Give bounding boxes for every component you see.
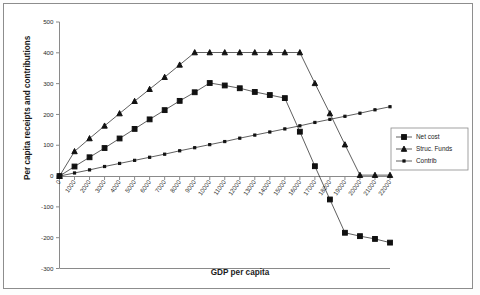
y-tick-label: 100 — [43, 141, 54, 148]
marker-square — [297, 129, 302, 134]
marker-triangle — [207, 50, 212, 55]
y-tick-label: 400 — [43, 49, 54, 56]
marker-triangle — [102, 123, 107, 128]
marker-cross — [239, 137, 241, 139]
y-axis-ticks: -300-200-1000100200300400500 — [41, 18, 59, 272]
x-tick-label: 0 — [54, 178, 62, 185]
marker-cross — [254, 134, 256, 136]
marker-cross — [103, 165, 105, 167]
marker-square — [252, 90, 257, 95]
marker-cross — [164, 153, 166, 155]
y-tick-label: -100 — [41, 203, 54, 210]
line-chart: -300-200-1000100200300400500 01000200030… — [0, 0, 480, 295]
x-tick-label: 4000 — [108, 178, 122, 194]
marker-triangle — [132, 98, 137, 103]
x-tick-label: 5000 — [123, 178, 137, 194]
y-tick-label: 500 — [43, 18, 54, 25]
marker-square — [267, 93, 272, 98]
x-tick-label: 8000 — [168, 178, 182, 194]
marker-square — [373, 237, 378, 242]
marker-cross — [284, 128, 286, 130]
marker-square — [312, 164, 317, 169]
marker-triangle — [372, 172, 377, 177]
x-tick-label: 9000 — [183, 178, 197, 194]
series-contrib — [58, 106, 391, 178]
series-net-cost — [57, 81, 392, 245]
marker-cross — [179, 150, 181, 152]
marker-cross — [134, 159, 136, 161]
marker-triangle — [312, 80, 317, 85]
chart-legend[interactable]: Net costStruc. FundsContrib — [391, 128, 468, 170]
marker-square — [388, 240, 393, 245]
marker-cross — [118, 162, 120, 164]
marker-square — [162, 108, 167, 113]
marker-triangle — [192, 50, 197, 55]
x-tick-label: 14000 — [257, 178, 273, 197]
marker-triangle — [297, 50, 302, 55]
marker-triangle — [117, 111, 122, 116]
legend-item-net-cost[interactable]: Net cost — [396, 133, 440, 140]
marker-triangle — [387, 172, 392, 177]
marker-square — [237, 86, 242, 91]
x-tick-label: 1000 — [63, 178, 77, 194]
marker-square — [222, 83, 227, 88]
marker-cross — [149, 156, 151, 158]
marker-triangle — [282, 50, 287, 55]
y-tick-label: -300 — [41, 265, 54, 272]
legend-label: Contrib — [416, 157, 437, 164]
marker-cross — [209, 144, 211, 146]
marker-cross — [403, 160, 405, 162]
x-tick-label: 17000 — [302, 178, 318, 197]
x-tick-label: 19000 — [332, 178, 348, 197]
marker-square — [147, 117, 152, 122]
x-axis-tick-labels: 0100020003000400050006000700080009000100… — [54, 178, 393, 197]
x-tick-label: 2000 — [78, 178, 92, 194]
marker-triangle — [87, 136, 92, 141]
marker-cross — [329, 118, 331, 120]
marker-cross — [389, 106, 391, 108]
marker-square — [87, 155, 92, 160]
x-tick-label: 12000 — [226, 178, 242, 197]
marker-triangle — [222, 50, 227, 55]
x-tick-label: 7000 — [153, 178, 167, 194]
marker-triangle — [357, 172, 362, 177]
marker-square — [132, 127, 137, 132]
marker-square — [328, 197, 333, 202]
data-series — [57, 50, 393, 245]
marker-cross — [58, 175, 60, 177]
marker-square — [358, 234, 363, 239]
y-tick-label: 0 — [50, 172, 54, 179]
marker-cross — [88, 169, 90, 171]
marker-square — [282, 96, 287, 101]
x-tick-label: 6000 — [138, 178, 152, 194]
legend-item-struc-funds[interactable]: Struc. Funds — [396, 145, 452, 152]
x-tick-label: 16000 — [287, 178, 303, 197]
x-tick-label: 20000 — [347, 178, 363, 197]
marker-cross — [73, 172, 75, 174]
marker-cross — [344, 115, 346, 117]
marker-square — [177, 98, 182, 103]
marker-cross — [374, 109, 376, 111]
x-tick-label: 22000 — [377, 178, 393, 197]
marker-cross — [359, 112, 361, 114]
series-line — [60, 83, 391, 243]
chart-page: -300-200-1000100200300400500 01000200030… — [0, 0, 480, 295]
marker-triangle — [342, 142, 347, 147]
marker-cross — [299, 125, 301, 127]
series-line — [60, 53, 391, 177]
marker-square — [192, 90, 197, 95]
marker-triangle — [147, 86, 152, 91]
marker-square — [72, 164, 77, 169]
legend-label: Net cost — [416, 133, 440, 140]
marker-triangle — [237, 50, 242, 55]
marker-square — [402, 135, 407, 140]
marker-triangle — [162, 74, 167, 79]
legend-label: Struc. Funds — [416, 145, 452, 152]
marker-square — [207, 81, 212, 86]
x-tick-label: 11000 — [212, 178, 228, 196]
marker-cross — [269, 131, 271, 133]
marker-square — [102, 146, 107, 151]
x-tick-label: 10000 — [196, 178, 212, 197]
marker-triangle — [177, 62, 182, 67]
marker-cross — [314, 121, 316, 123]
